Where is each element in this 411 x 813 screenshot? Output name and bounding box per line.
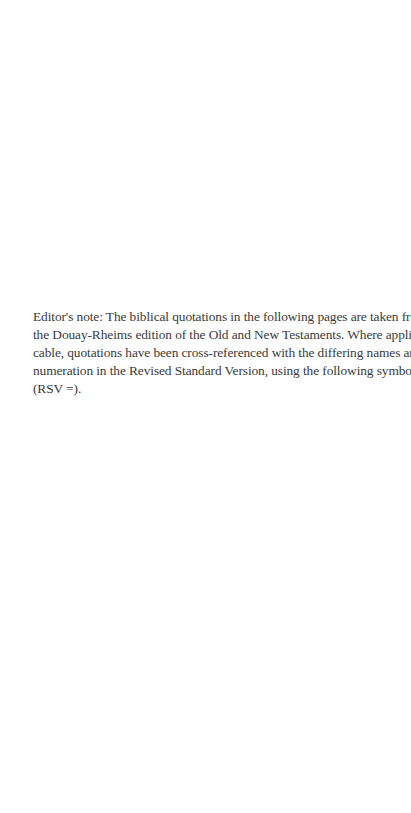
editor-note-line-4: numeration in the Revised Standard Versi… <box>33 362 378 380</box>
editor-note-paragraph: Editor's note: The biblical quotations i… <box>33 308 378 398</box>
editor-note-line-2: the Douay-Rheims edition of the Old and … <box>33 326 378 344</box>
editor-note-line-1: Editor's note: The biblical quotations i… <box>33 308 378 326</box>
editor-note-line-5: (RSV =). <box>33 380 378 398</box>
editor-note-line-3: cable, quotations have been cross-refere… <box>33 344 378 362</box>
book-page: Editor's note: The biblical quotations i… <box>0 0 411 813</box>
